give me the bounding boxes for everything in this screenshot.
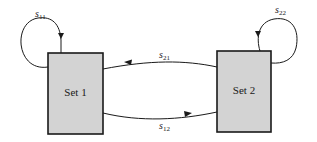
arrowhead-s11 [58, 33, 64, 39]
edge-label-s12: s12 [159, 120, 170, 133]
edge-label-s21: s21 [159, 49, 170, 62]
arrowhead-s21 [124, 60, 132, 66]
transition-diagram: Set 1 Set 2 s11 s22 s21 s12 [0, 0, 317, 142]
edge-s21 [103, 62, 217, 69]
edge-s12 [103, 112, 217, 119]
edge-label-s22: s22 [275, 4, 286, 17]
set-2-label: Set 2 [233, 84, 255, 96]
arrowhead-s22 [255, 31, 261, 37]
set-1-label: Set 1 [64, 86, 86, 98]
edge-label-s11: s11 [35, 8, 46, 21]
